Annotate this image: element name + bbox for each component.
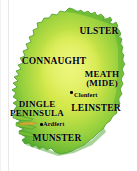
label-clonfert: Clonfert bbox=[74, 92, 97, 99]
label-meath: MEATH (MIDE) bbox=[74, 70, 130, 88]
label-meath-line2: (MIDE) bbox=[74, 79, 130, 88]
label-ulster: ULSTER bbox=[68, 27, 130, 37]
label-dingle-line2: PENINSULA bbox=[8, 109, 66, 118]
label-munster: MUNSTER bbox=[22, 134, 92, 144]
label-ardfert: Ardfert bbox=[43, 121, 64, 128]
clonfert-dot bbox=[70, 91, 73, 94]
ireland-map-figure: ULSTER CONNAUGHT MEATH (MIDE) Clonfert L… bbox=[0, 0, 137, 171]
label-connaught: CONNAUGHT bbox=[16, 57, 92, 67]
label-leinster: LEINSTER bbox=[64, 104, 128, 114]
label-dingle-peninsula: DINGLE PENINSULA bbox=[8, 100, 66, 118]
